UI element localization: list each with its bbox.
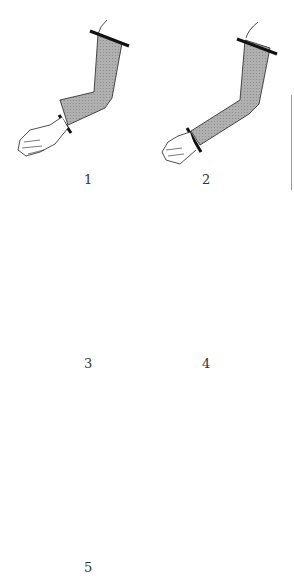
figure-1-arm (18, 20, 129, 156)
arm-diagram (0, 0, 294, 576)
figure-label-1: 1 (84, 172, 92, 187)
figure-label-4: 4 (202, 356, 210, 371)
edge-rule (291, 95, 292, 190)
figure-label-3: 3 (84, 356, 92, 371)
figure-label-2: 2 (202, 172, 210, 187)
figure-label-5: 5 (84, 560, 92, 575)
figure-2-arm (162, 22, 277, 164)
